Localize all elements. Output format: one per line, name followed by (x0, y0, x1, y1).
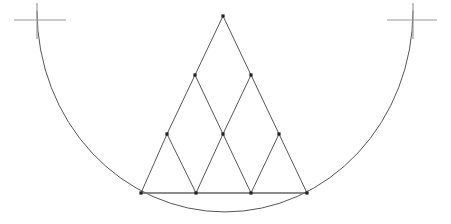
triangle-edge-p2-p5 (251, 75, 279, 134)
triangle-vertex-dot-p2 (249, 73, 252, 76)
triangle-vertex-dot-p4 (221, 132, 224, 135)
triangle-vertex-dot-p3 (165, 132, 168, 135)
triangle-edge-p4-p7 (196, 134, 223, 193)
geometry-figure-canvas (0, 0, 451, 224)
triangle-vertex-dot-p9 (305, 191, 308, 194)
triangle-vertex-dot-group (139, 14, 308, 194)
triangle-vertex-dot-p6 (139, 191, 142, 194)
triangle-edge-p2-p4 (223, 75, 251, 134)
geometry-figure-svg (0, 0, 451, 224)
triangle-edge-p3-p7 (167, 134, 196, 193)
triangle-edge-p0-p1 (195, 16, 223, 75)
triangle-edge-p5-p8 (251, 134, 279, 193)
triangle-vertex-dot-p8 (249, 191, 252, 194)
triangle-edge-p3-p6 (141, 134, 167, 193)
triangle-vertex-dot-p1 (193, 73, 196, 76)
triangle-vertex-dot-p5 (277, 132, 280, 135)
triangle-edge-p1-p4 (195, 75, 223, 134)
circular-arc (37, 11, 413, 212)
triangle-edge-p4-p8 (223, 134, 251, 193)
triangle-vertex-dot-p7 (194, 191, 197, 194)
triangle-edge-p5-p9 (279, 134, 307, 193)
triangle-edge-p1-p3 (167, 75, 195, 134)
triangle-vertex-dot-p0 (221, 14, 224, 17)
triangle-edge-group (141, 16, 307, 193)
arc-group (37, 11, 413, 212)
triangle-edge-p0-p2 (223, 16, 251, 75)
